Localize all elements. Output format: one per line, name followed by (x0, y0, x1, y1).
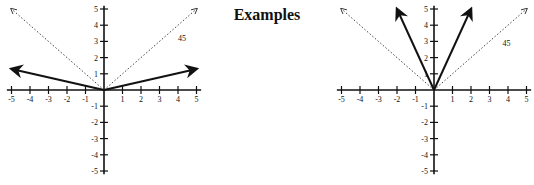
x-tick-label: 1 (451, 95, 455, 104)
x-tick-label: 2 (139, 95, 143, 104)
function-line-right (434, 9, 471, 90)
y-tick-label: -1 (91, 102, 98, 111)
reference-line-left (342, 9, 435, 90)
x-tick-label: -4 (357, 95, 364, 104)
reference-line-left (12, 9, 105, 90)
y-tick-label: -5 (91, 167, 98, 176)
y-tick-label: 2 (94, 54, 98, 63)
function-line-left (397, 9, 434, 90)
x-tick-label: -3 (45, 95, 52, 104)
y-tick-label: 1 (94, 70, 98, 79)
y-tick-label: -3 (421, 135, 428, 144)
y-tick-label: -1 (421, 102, 428, 111)
x-tick-label: -1 (82, 95, 89, 104)
x-tick-label: 3 (488, 95, 492, 104)
x-tick-label: -2 (64, 95, 71, 104)
y-tick-label: -4 (421, 151, 428, 160)
x-tick-label: 5 (195, 95, 199, 104)
angle-annotation: 45 (502, 39, 510, 48)
function-line-right (104, 69, 197, 90)
angle-annotation: 45 (178, 34, 186, 43)
y-tick-label: 5 (424, 5, 428, 14)
x-tick-label: 4 (506, 95, 510, 104)
y-tick-label: 4 (94, 21, 98, 30)
x-tick-label: 5 (525, 95, 529, 104)
x-tick-label: 2 (469, 95, 473, 104)
y-tick-label: 2 (424, 54, 428, 63)
x-tick-label: 3 (158, 95, 162, 104)
y-tick-label: -2 (421, 118, 428, 127)
graphs-canvas: -5-4-3-2-11234554321-1-2-3-4-545-5-4-3-2… (0, 0, 534, 185)
reference-line-right (104, 9, 197, 90)
y-tick-label: -2 (91, 118, 98, 127)
y-tick-label: 5 (94, 5, 98, 14)
x-tick-label: 4 (176, 95, 180, 104)
x-tick-label: -1 (412, 95, 419, 104)
function-line-left (12, 69, 105, 90)
y-tick-label: 4 (424, 21, 428, 30)
y-tick-label: 3 (94, 37, 98, 46)
y-tick-label: -3 (91, 135, 98, 144)
x-tick-label: -5 (8, 95, 15, 104)
x-tick-label: 1 (121, 95, 125, 104)
y-tick-label: -5 (421, 167, 428, 176)
x-tick-label: -5 (338, 95, 345, 104)
x-tick-label: -4 (27, 95, 34, 104)
y-tick-label: -4 (91, 151, 98, 160)
x-tick-label: -2 (394, 95, 401, 104)
y-tick-label: 3 (424, 37, 428, 46)
reference-line-right (434, 9, 527, 90)
x-tick-label: -3 (375, 95, 382, 104)
